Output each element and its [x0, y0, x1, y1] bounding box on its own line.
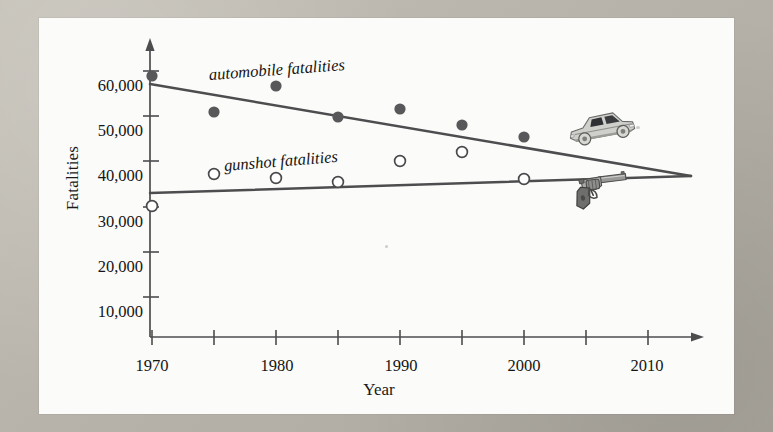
data-point [146, 70, 157, 81]
figure-card: Fatalities 60,000 50,000 40,000 30,000 2… [39, 18, 734, 414]
data-point [333, 177, 344, 188]
data-point [395, 156, 406, 167]
data-point [519, 174, 530, 185]
data-point [208, 106, 219, 117]
car-icon [563, 105, 639, 149]
chart-plot-area [39, 18, 734, 414]
y-axis-ticks [143, 71, 159, 297]
series-markers-gunshot [147, 147, 530, 212]
data-point [457, 147, 468, 158]
series-markers-automobile [146, 70, 529, 142]
data-point [518, 131, 529, 142]
data-point [456, 119, 467, 130]
data-point [394, 103, 405, 114]
data-point [271, 173, 282, 184]
data-point [147, 201, 158, 212]
data-point [270, 80, 281, 91]
screenshot-page: Fatalities 60,000 50,000 40,000 30,000 2… [0, 0, 773, 432]
data-point [332, 111, 343, 122]
scan-speck [385, 245, 388, 248]
scan-speck [636, 126, 640, 129]
x-axis [150, 332, 704, 341]
data-point [209, 169, 220, 180]
gun-icon [566, 166, 632, 212]
